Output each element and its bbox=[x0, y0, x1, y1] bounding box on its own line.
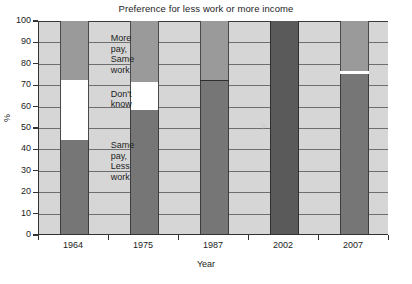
y-tick-label-70: 70 bbox=[21, 79, 31, 89]
plot-inner: More pay, Same workDon't knowSame pay, L… bbox=[39, 21, 388, 234]
segment-gap-2007 bbox=[340, 71, 369, 74]
y-tick-label-0: 0 bbox=[26, 229, 31, 239]
y-tick-mark-20 bbox=[33, 192, 38, 193]
bar-segment-2007-same-pay-less-work bbox=[340, 74, 369, 235]
annotation-dont-know: Don't know bbox=[111, 89, 132, 110]
y-tick-label-40: 40 bbox=[21, 143, 31, 153]
y-tick-mark-60 bbox=[33, 106, 38, 107]
chart-title: Preference for less work or more income bbox=[0, 3, 412, 14]
y-tick-mark-10 bbox=[33, 213, 38, 214]
bar-segment-1964-more-pay-same-work bbox=[60, 21, 89, 80]
bar-segment-2007-more-pay-same-work bbox=[340, 21, 369, 74]
bar-1964[interactable] bbox=[60, 21, 89, 234]
y-tick-label-80: 80 bbox=[21, 58, 31, 68]
x-tick-mark-3 bbox=[248, 235, 249, 240]
y-tick-mark-100 bbox=[33, 20, 38, 21]
x-tick-label-1987: 1987 bbox=[183, 240, 243, 250]
y-tick-label-30: 30 bbox=[21, 165, 31, 175]
x-tick-mark-end bbox=[388, 235, 389, 240]
bar-segment-1987-more-pay-same-work bbox=[200, 21, 229, 81]
y-tick-mark-80 bbox=[33, 63, 38, 64]
y-tick-label-50: 50 bbox=[21, 122, 31, 132]
annotation-same-pay-less-work: Same pay, Less work bbox=[111, 140, 135, 182]
bar-segment-1987-same-pay-less-work bbox=[200, 81, 229, 234]
x-tick-mark-4 bbox=[318, 235, 319, 240]
x-tick-label-2002: 2002 bbox=[253, 240, 313, 250]
y-tick-mark-30 bbox=[33, 170, 38, 171]
x-tick-label-1975: 1975 bbox=[113, 240, 173, 250]
x-tick-mark-0 bbox=[38, 235, 39, 240]
bar-1987[interactable] bbox=[200, 21, 229, 234]
y-tick-label-20: 20 bbox=[21, 186, 31, 196]
y-tick-mark-40 bbox=[33, 149, 38, 150]
y-tick-label-100: 100 bbox=[16, 15, 31, 25]
bar-segment-1964-don-t-know bbox=[60, 80, 89, 140]
bar-2007[interactable] bbox=[340, 21, 369, 234]
y-tick-mark-70 bbox=[33, 85, 38, 86]
bar-segment-1964-same-pay-less-work bbox=[60, 140, 89, 234]
y-tick-label-60: 60 bbox=[21, 101, 31, 111]
y-tick-label-90: 90 bbox=[21, 36, 31, 46]
segment-divider-1987 bbox=[200, 80, 229, 81]
annotation-missing-data-marker: ? bbox=[243, 122, 283, 133]
chart-figure: Preference for less work or more income … bbox=[0, 0, 412, 284]
x-tick-label-2007: 2007 bbox=[323, 240, 383, 250]
bar-segment-1975-don-t-know bbox=[130, 82, 159, 110]
x-tick-label-1964: 1964 bbox=[43, 240, 103, 250]
x-tick-mark-2 bbox=[178, 235, 179, 240]
y-tick-label-10: 10 bbox=[21, 208, 31, 218]
x-axis-title: Year bbox=[0, 259, 412, 269]
y-tick-mark-90 bbox=[33, 42, 38, 43]
y-axis-label: % bbox=[2, 114, 12, 122]
x-tick-mark-1 bbox=[108, 235, 109, 240]
annotation-more-pay-same-work: More pay, Same work bbox=[111, 33, 135, 75]
plot-area: More pay, Same workDon't knowSame pay, L… bbox=[38, 21, 388, 235]
y-tick-mark-50 bbox=[33, 127, 38, 128]
